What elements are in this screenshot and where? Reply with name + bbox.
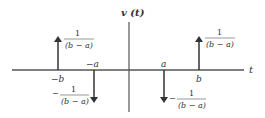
weight-numerator: 1 <box>189 89 194 98</box>
tick-label-b: b <box>196 74 202 84</box>
tick-label-minus-b: −b <box>51 74 65 84</box>
weight-denominator: (b − a) <box>61 97 89 106</box>
tick-label-a: a <box>161 59 166 69</box>
impulse-minus-b: −b 1 (b − a) <box>51 29 94 84</box>
weight-numerator: 1 <box>217 28 222 37</box>
weight-numerator: 1 <box>71 85 76 94</box>
weight-denominator: (b − a) <box>65 41 93 50</box>
tick-label-minus-a: −a <box>86 59 99 69</box>
t-axis-label: t <box>249 64 254 75</box>
impulse-diagram: v (t) t −b 1 (b − a) −a − 1 (b − a) a − … <box>0 0 265 118</box>
weight-denominator: (b − a) <box>206 40 234 49</box>
weight-sign: − <box>169 94 176 103</box>
weight-numerator: 1 <box>75 29 80 38</box>
v-axis-title: v (t) <box>121 7 145 18</box>
impulse-b: b 1 (b − a) <box>196 28 235 84</box>
weight-sign: − <box>52 89 59 98</box>
weight-denominator: (b − a) <box>178 101 206 110</box>
